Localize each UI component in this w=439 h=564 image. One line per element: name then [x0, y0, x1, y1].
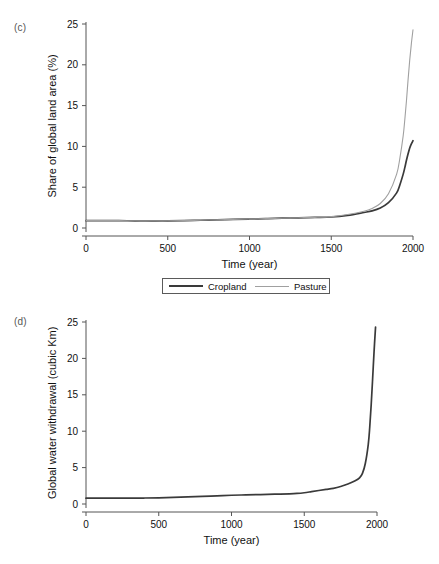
svg-text:20: 20 [67, 353, 79, 364]
svg-text:0: 0 [72, 223, 78, 234]
svg-text:500: 500 [150, 519, 167, 530]
svg-text:20: 20 [67, 59, 79, 70]
legend-item-cropland: Cropland [163, 281, 249, 292]
series-line-pasture [86, 30, 413, 221]
svg-text:500: 500 [159, 243, 176, 254]
svg-text:0: 0 [83, 243, 89, 254]
legend-item-pasture: Pasture [249, 281, 329, 292]
svg-text:1500: 1500 [320, 243, 343, 254]
svg-text:10: 10 [67, 141, 79, 152]
series-line-cropland [86, 141, 413, 221]
figure-container: (c) Share of global land area (%) Time (… [0, 0, 439, 564]
svg-text:2000: 2000 [402, 243, 425, 254]
svg-text:1500: 1500 [293, 519, 316, 530]
series-line-global-water-withdrawal [86, 327, 376, 498]
panel-d: (d) Global water withdrawal (cubic Km) T… [0, 300, 439, 564]
legend-line-pasture-icon [255, 286, 289, 287]
legend-label-pasture: Pasture [294, 281, 327, 292]
legend-label-cropland: Cropland [208, 281, 247, 292]
svg-text:0: 0 [83, 519, 89, 530]
panel-c-plot: 05101520250500100015002000 [0, 0, 439, 272]
svg-text:0: 0 [72, 499, 78, 510]
svg-text:15: 15 [67, 389, 79, 400]
svg-text:15: 15 [67, 100, 79, 111]
svg-text:10: 10 [67, 426, 79, 437]
svg-text:1000: 1000 [238, 243, 261, 254]
svg-text:25: 25 [67, 317, 79, 328]
legend: Cropland Pasture [162, 278, 330, 294]
svg-text:1000: 1000 [220, 519, 243, 530]
svg-text:25: 25 [67, 19, 79, 30]
svg-text:5: 5 [72, 462, 78, 473]
legend-line-cropland-icon [169, 285, 203, 287]
svg-text:2000: 2000 [366, 519, 389, 530]
panel-d-plot: 05101520250500100015002000 [0, 300, 439, 564]
panel-c: (c) Share of global land area (%) Time (… [0, 0, 439, 272]
svg-text:5: 5 [72, 182, 78, 193]
